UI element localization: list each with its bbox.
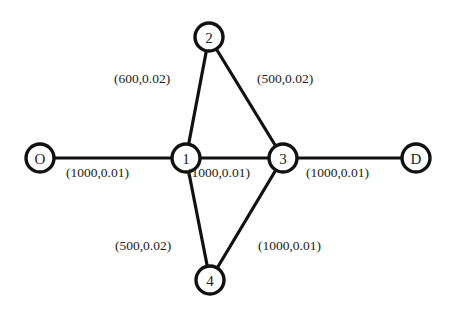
node-3: 3: [269, 144, 297, 172]
edge-1-2: [186, 37, 209, 158]
edge-label-3-4: (1000,0.01): [258, 238, 321, 253]
node-label: D: [411, 151, 422, 167]
node-2: 2: [195, 23, 223, 51]
network-diagram: O1234D (1000,0.01)(600,0.02)(500,0.02)(1…: [0, 0, 450, 320]
node-4: 4: [196, 266, 224, 294]
edges-group: [40, 37, 416, 280]
edge-label-1-4: (500,0.02): [115, 238, 171, 253]
node-label: 3: [279, 151, 287, 167]
edge-label-2-3: (500,0.02): [257, 71, 313, 86]
node-D: D: [402, 144, 430, 172]
edge-labels-group: (1000,0.01)(600,0.02)(500,0.02)(1000,0.0…: [66, 71, 369, 253]
node-label: 2: [205, 30, 213, 46]
edge-2-3: [209, 37, 283, 158]
edge-label-1-3: (1000,0.01): [187, 165, 250, 180]
node-label: O: [35, 151, 46, 167]
edge-label-O-1: (1000,0.01): [66, 165, 129, 180]
node-O: O: [26, 144, 54, 172]
node-label: 4: [206, 273, 214, 289]
edge-label-1-2: (600,0.02): [114, 71, 170, 86]
edge-label-3-D: (1000,0.01): [306, 165, 369, 180]
